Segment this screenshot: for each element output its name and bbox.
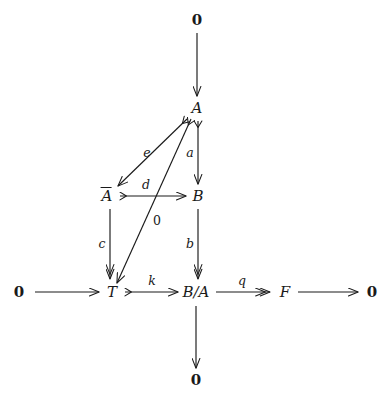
node-zero-top: 0	[192, 13, 202, 28]
arrow-label-a: a	[186, 147, 193, 160]
node-F: F	[280, 285, 290, 300]
arrow-label-c: c	[98, 238, 105, 251]
node-zero-bottom: 0	[191, 373, 201, 388]
arrow-label-zero-diagonal: 0	[153, 215, 161, 228]
node-A-bar: A	[102, 188, 113, 204]
arrow-label-k: k	[148, 275, 156, 288]
arrow-label-b: b	[186, 238, 194, 251]
arrow-A-to-T	[117, 119, 191, 283]
node-T: T	[107, 285, 117, 300]
node-zero-right: 0	[367, 285, 377, 300]
arrow-label-q: q	[238, 275, 246, 288]
commutative-diagram: 0 A A B 0 T B/A F 0 0 a e d 0 c b k q	[0, 0, 391, 402]
node-zero-left: 0	[14, 285, 24, 300]
arrow-A-to-Abar	[118, 119, 187, 186]
node-A: A	[192, 101, 203, 116]
node-B-over-A: B/A	[183, 285, 210, 300]
node-A-bar-text: A	[102, 188, 113, 204]
arrow-label-d: d	[142, 179, 150, 192]
arrow-label-e: e	[143, 147, 150, 160]
node-B: B	[192, 189, 203, 204]
